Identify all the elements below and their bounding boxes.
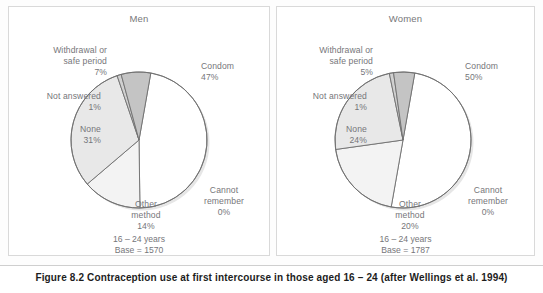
slice-label-other-method-men: Other method 14% — [117, 199, 175, 232]
slice-label-withdrawal-men: Withdrawal or safe period 7% — [15, 45, 107, 78]
figure-caption-bar: Figure 8.2 Contraception use at first in… — [0, 265, 543, 293]
chart-panel-men: Men Condom 47% Withdrawal or safe period… — [8, 6, 270, 256]
slice-label-withdrawal-women: Withdrawal or safe period 5% — [281, 45, 373, 78]
slice-label-other-method-women: Other method 20% — [381, 199, 439, 232]
slice-label-none-women: None 24% — [293, 124, 367, 146]
base-note-age-men: 16 – 24 years — [9, 234, 269, 245]
base-note-count-men: Base = 1570 — [9, 245, 269, 256]
slice-label-condom-women: Condom 50% — [465, 61, 535, 83]
base-note-count-women: Base = 1787 — [277, 245, 534, 256]
slice-label-not-answered-women: Not answered 1% — [275, 91, 367, 113]
charts-area: Men Condom 47% Withdrawal or safe period… — [0, 0, 543, 262]
slice-label-cannot-remember-men: Cannot remember 0% — [193, 185, 255, 218]
slice-label-not-answered-men: Not answered 1% — [9, 91, 101, 113]
figure-container: Men Condom 47% Withdrawal or safe period… — [0, 0, 543, 293]
base-note-age-women: 16 – 24 years — [277, 234, 534, 245]
slice-label-none-men: None 31% — [27, 124, 101, 146]
figure-caption: Figure 8.2 Contraception use at first in… — [0, 272, 543, 283]
slice-label-cannot-remember-women: Cannot remember 0% — [457, 185, 519, 218]
slice-other-method — [336, 140, 403, 207]
slice-label-condom-men: Condom 47% — [201, 61, 271, 83]
chart-panel-women: Women Condom 50% Withdrawal or safe peri… — [276, 6, 535, 256]
